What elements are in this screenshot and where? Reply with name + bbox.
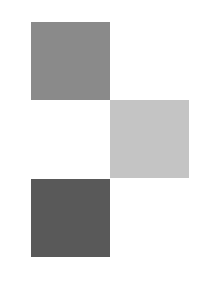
light-gray-square: [110, 100, 189, 178]
dark-gray-square: [31, 179, 110, 257]
medium-gray-square: [31, 22, 110, 100]
